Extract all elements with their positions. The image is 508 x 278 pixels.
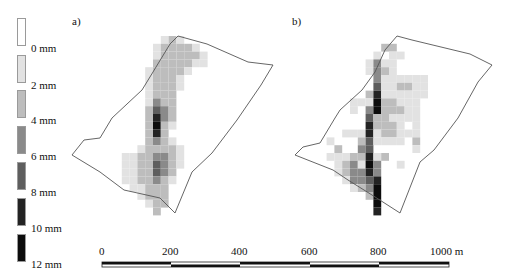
grid-cell	[405, 114, 413, 122]
grid-cell	[153, 130, 161, 138]
grid-cell	[145, 200, 153, 208]
grid-cell	[366, 91, 374, 99]
grid-cell	[169, 83, 177, 91]
grid-cell	[153, 192, 161, 200]
grid-cell	[334, 161, 342, 169]
grid-cell	[145, 106, 153, 114]
grid-cell	[145, 145, 153, 153]
grid-cell	[122, 169, 130, 177]
grid-cell	[389, 137, 397, 145]
scale-tick-label: 1000 m	[430, 245, 463, 257]
grid-cell	[397, 106, 405, 114]
grid-cell	[122, 161, 130, 169]
grid-cell	[153, 106, 161, 114]
grid-cell	[176, 67, 184, 75]
grid-cell	[161, 36, 169, 44]
grid-cell	[169, 106, 177, 114]
grid-cell	[176, 75, 184, 83]
grid-cell	[176, 153, 184, 161]
grid-cell	[130, 176, 138, 184]
grid-cell	[153, 114, 161, 122]
grid-cell	[397, 161, 405, 169]
grid-cell	[184, 59, 192, 67]
grid-cell	[373, 91, 381, 99]
grid-cell	[405, 83, 413, 91]
grid-cell	[161, 114, 169, 122]
grid-cell	[161, 130, 169, 138]
grid-cell	[350, 106, 358, 114]
maps-canvas	[0, 0, 508, 278]
grid-cell	[342, 169, 350, 177]
grid-cell	[358, 169, 366, 177]
grid-cell	[397, 122, 405, 130]
grid-cell	[405, 98, 413, 106]
grid-cell	[373, 184, 381, 192]
grid-cell	[334, 145, 342, 153]
grid-cell	[169, 98, 177, 106]
grid-cell	[200, 59, 208, 67]
grid-cell	[169, 52, 177, 60]
grid-cell	[397, 130, 405, 138]
grid-cell	[161, 200, 169, 208]
grid-cell	[381, 67, 389, 75]
grid-cell	[366, 176, 374, 184]
map-b-grid	[327, 44, 428, 216]
grid-cell	[176, 59, 184, 67]
grid-cell	[350, 176, 358, 184]
grid-cell	[161, 145, 169, 153]
grid-cell	[161, 122, 169, 130]
grid-cell	[130, 153, 138, 161]
grid-cell	[169, 114, 177, 122]
grid-cell	[373, 208, 381, 216]
grid-cell	[342, 153, 350, 161]
grid-cell	[389, 91, 397, 99]
grid-cell	[358, 98, 366, 106]
grid-cell	[145, 169, 153, 177]
grid-cell	[145, 184, 153, 192]
scale-tick-label: 200	[162, 245, 179, 257]
grid-cell	[145, 98, 153, 106]
grid-cell	[350, 169, 358, 177]
grid-cell	[176, 161, 184, 169]
grid-cell	[358, 176, 366, 184]
grid-cell	[192, 44, 200, 52]
grid-cell	[161, 192, 169, 200]
grid-cell	[153, 161, 161, 169]
scale-seg	[171, 265, 240, 268]
grid-cell	[161, 83, 169, 91]
grid-cell	[373, 200, 381, 208]
grid-cell	[145, 83, 153, 91]
grid-cell	[200, 52, 208, 60]
grid-cell	[373, 137, 381, 145]
grid-cell	[397, 91, 405, 99]
grid-cell	[327, 153, 335, 161]
grid-cell	[145, 153, 153, 161]
grid-cell	[420, 83, 428, 91]
grid-cell	[373, 161, 381, 169]
grid-cell	[366, 98, 374, 106]
grid-cell	[153, 137, 161, 145]
grid-cell	[389, 52, 397, 60]
grid-cell	[420, 75, 428, 83]
grid-cell	[405, 91, 413, 99]
grid-cell	[358, 130, 366, 138]
grid-cell	[161, 75, 169, 83]
grid-cell	[153, 122, 161, 130]
grid-cell	[153, 176, 161, 184]
grid-cell	[169, 161, 177, 169]
grid-cell	[412, 130, 420, 138]
grid-cell	[389, 106, 397, 114]
grid-cell	[366, 161, 374, 169]
scale-bar	[102, 262, 449, 267]
grid-cell	[405, 106, 413, 114]
grid-cell	[350, 130, 358, 138]
grid-cell	[420, 91, 428, 99]
grid-cell	[176, 44, 184, 52]
grid-cell	[153, 52, 161, 60]
grid-cell	[153, 44, 161, 52]
grid-cell	[389, 98, 397, 106]
grid-cell	[366, 137, 374, 145]
grid-cell	[397, 75, 405, 83]
grid-cell	[389, 122, 397, 130]
grid-cell	[381, 91, 389, 99]
